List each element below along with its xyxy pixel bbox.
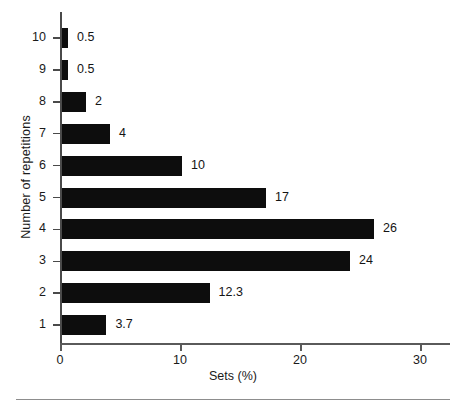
x-axis-spine	[60, 343, 450, 345]
bar	[62, 92, 86, 112]
y-tick-label: 2	[12, 285, 46, 299]
y-tick-mark	[53, 37, 60, 39]
bar-value-label: 12.3	[219, 285, 243, 299]
y-tick-mark	[53, 69, 60, 71]
y-tick-mark	[53, 101, 60, 103]
y-tick-label: 3	[12, 253, 46, 267]
bar-value-label: 24	[359, 253, 373, 267]
bar-row: 12.3	[62, 283, 330, 303]
bar-value-label: 2	[95, 94, 102, 108]
x-tick-mark	[180, 344, 182, 351]
x-tick-mark	[60, 344, 62, 351]
bar-value-label: 3.7	[115, 317, 132, 331]
bar	[62, 251, 350, 271]
bar	[62, 156, 182, 176]
y-tick-label: 1	[12, 317, 46, 331]
y-tick-label: 7	[12, 126, 46, 140]
x-tick-mark	[300, 344, 302, 351]
bar-row: 24	[62, 251, 466, 271]
y-tick-label: 4	[12, 221, 46, 235]
bar-row: 17	[62, 188, 386, 208]
bar-row: 2	[62, 92, 206, 112]
bar	[62, 188, 266, 208]
x-tick-label: 0	[40, 353, 80, 367]
bar-value-label: 4	[119, 126, 126, 140]
x-tick-label: 20	[280, 353, 320, 367]
bar-row: 10	[62, 156, 302, 176]
y-tick-label: 8	[12, 94, 46, 108]
bar-row: 0.5	[62, 28, 188, 48]
bar	[62, 315, 106, 335]
plot-area: 0.50.5241017262412.33.7 10987654321	[60, 12, 466, 344]
y-tick-label: 6	[12, 158, 46, 172]
y-tick-mark	[53, 292, 60, 294]
bar-row: 3.7	[62, 315, 226, 335]
y-tick-label: 9	[12, 62, 46, 76]
y-tick-mark	[53, 261, 60, 263]
bar-row: 0.5	[62, 60, 188, 80]
bar-row: 4	[62, 124, 230, 144]
bar	[62, 219, 374, 239]
y-tick-mark	[53, 229, 60, 231]
bar	[62, 60, 68, 80]
x-tick-mark	[420, 344, 422, 351]
y-tick-mark	[53, 165, 60, 167]
bar-value-label: 26	[383, 221, 397, 235]
x-axis-title: Sets (%)	[0, 369, 466, 383]
bar	[62, 28, 68, 48]
y-tick-mark	[53, 133, 60, 135]
bar-value-label: 17	[275, 190, 289, 204]
x-tick-label: 30	[400, 353, 440, 367]
x-tick-label: 10	[160, 353, 200, 367]
bar-value-label: 10	[191, 158, 205, 172]
bar-value-label: 0.5	[77, 62, 94, 76]
bottom-divider	[16, 399, 450, 400]
y-tick-label: 10	[12, 30, 46, 44]
y-tick-label: 5	[12, 190, 46, 204]
bar	[62, 283, 210, 303]
bar-chart-figure: Number of repetitions 0.50.5241017262412…	[0, 0, 466, 411]
bar	[62, 124, 110, 144]
bar-row: 26	[62, 219, 466, 239]
y-tick-mark	[53, 197, 60, 199]
y-tick-mark	[53, 324, 60, 326]
bar-value-label: 0.5	[77, 30, 94, 44]
